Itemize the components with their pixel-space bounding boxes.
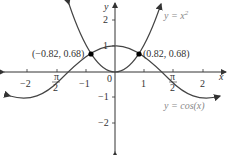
- cosine-label: y = cos(x): [163, 100, 205, 112]
- x-tick-label-neg-pi-over-2-den: 2: [53, 82, 58, 93]
- parabola-label: y = x2: [163, 9, 189, 21]
- point-label-left: (−0.82, 0.68): [32, 48, 84, 60]
- y-axis-label: y: [103, 1, 109, 12]
- y-tick-label-neg1: −1: [98, 91, 109, 102]
- point-label-right: (0.82, 0.68): [143, 48, 190, 60]
- intersection-point-left: [88, 51, 93, 56]
- x-tick-label-pi-over-2-pi: π: [170, 71, 175, 82]
- y-tick-label-2: 2: [103, 14, 108, 25]
- x-tick-label-neg-pi-over-2-pi: π: [54, 71, 59, 82]
- intersection-point-right: [136, 51, 141, 56]
- origin-label: 0: [107, 73, 112, 84]
- x-tick-label-pi-over-2-den: 2: [170, 82, 175, 93]
- chart-canvas: x y 0 −2 π 2 −1 1 π 2 2 2 1 −1 −2 (−0.82…: [0, 0, 232, 155]
- x-axis-label: x: [218, 71, 224, 82]
- y-tick-label-1: 1: [103, 40, 108, 51]
- x-tick-label-neg1: −1: [79, 78, 90, 89]
- x-tick-label-1: 1: [141, 78, 146, 89]
- y-tick-label-neg2: −2: [98, 117, 109, 128]
- x-tick-label-neg2: −2: [20, 78, 31, 89]
- x-tick-label-2: 2: [200, 78, 205, 89]
